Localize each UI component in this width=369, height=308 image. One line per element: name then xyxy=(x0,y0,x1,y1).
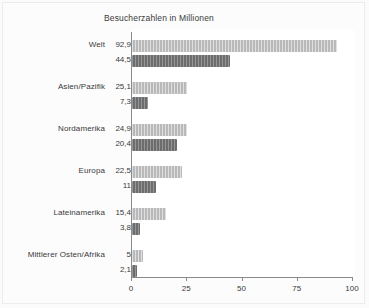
bar-light xyxy=(132,250,143,262)
bar-light xyxy=(132,166,182,178)
category-label: Nordamerika xyxy=(58,124,105,133)
x-tick-label: 0 xyxy=(129,284,133,293)
bar-value-label: 20,4 xyxy=(109,139,131,148)
bar-dark xyxy=(132,265,137,277)
bar-dark xyxy=(132,55,230,67)
plot-area xyxy=(131,30,354,277)
bar-value-label: 5 xyxy=(109,250,131,259)
x-tick-mark xyxy=(131,277,132,281)
bar-value-label: 3,8 xyxy=(109,223,131,232)
bar-light xyxy=(132,208,166,220)
chart-title: Besucherzahlen in Millionen xyxy=(104,13,214,23)
bar-dark xyxy=(132,97,148,109)
bar-dark xyxy=(132,223,140,235)
x-tick-mark xyxy=(297,277,298,281)
bar-chart: Besucherzahlen in Millionen Welt92,944,5… xyxy=(0,0,369,308)
x-tick-label: 50 xyxy=(237,284,246,293)
category-label: Welt xyxy=(89,40,105,49)
bar-value-label: 11 xyxy=(109,181,131,190)
category-label: Lateinamerika xyxy=(53,208,105,217)
bar-value-label: 25,1 xyxy=(109,82,131,91)
bar-dark xyxy=(132,139,177,151)
x-tick-label: 75 xyxy=(292,284,301,293)
x-tick-mark xyxy=(186,277,187,281)
category-label: Europa xyxy=(79,166,105,175)
y-axis-line xyxy=(131,32,132,277)
bar-dark xyxy=(132,181,156,193)
x-tick-mark xyxy=(242,277,243,281)
category-label: Asien/Pazifik xyxy=(58,82,105,91)
bar-light xyxy=(132,124,187,136)
bar-value-label: 22,5 xyxy=(109,166,131,175)
bar-value-label: 7,3 xyxy=(109,97,131,106)
bar-light xyxy=(132,82,187,94)
bar-value-label: 2,1 xyxy=(109,265,131,274)
x-tick-mark xyxy=(352,277,353,281)
bar-light xyxy=(132,40,337,52)
bar-value-label: 44,5 xyxy=(109,55,131,64)
x-tick-label: 100 xyxy=(345,284,358,293)
bar-value-label: 92,9 xyxy=(109,40,131,49)
bar-value-label: 15,4 xyxy=(109,208,131,217)
bar-value-label: 24,9 xyxy=(109,124,131,133)
x-tick-label: 25 xyxy=(182,284,191,293)
category-label: Mittlerer Osten/Afrika xyxy=(28,250,105,259)
